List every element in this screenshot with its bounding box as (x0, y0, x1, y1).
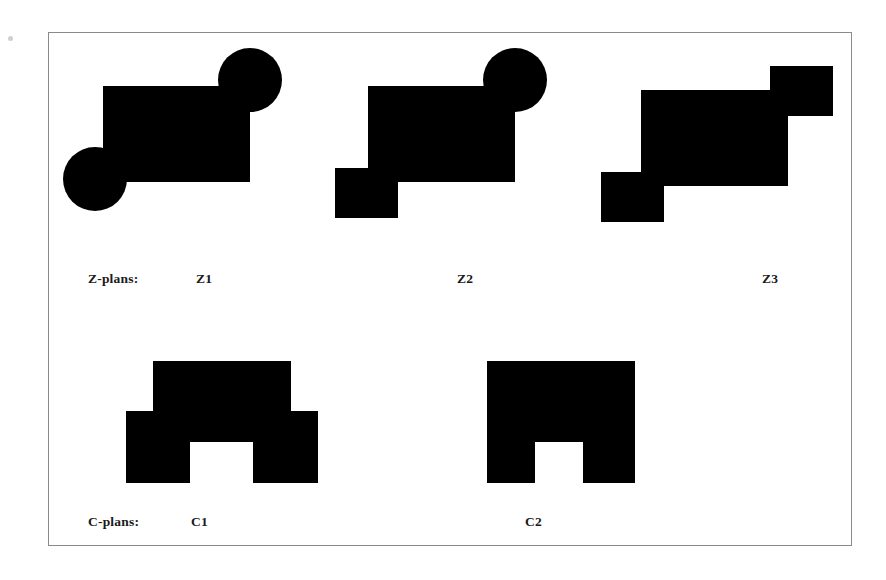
plan-label-c1: C1 (191, 514, 208, 530)
c-plans-caption: C-plans: (88, 514, 139, 530)
scan-speckle (8, 36, 13, 41)
plan-label-z1: Z1 (196, 271, 212, 287)
plan-label-z2: Z2 (457, 271, 473, 287)
plan-label-c2: C2 (525, 514, 542, 530)
figure-root: Z-plans: Z1 Z2 Z3 C-plans: C1 C2 (0, 0, 886, 580)
plate-frame (48, 32, 852, 546)
z-plans-caption: Z-plans: (88, 271, 138, 287)
plan-label-z3: Z3 (762, 271, 778, 287)
